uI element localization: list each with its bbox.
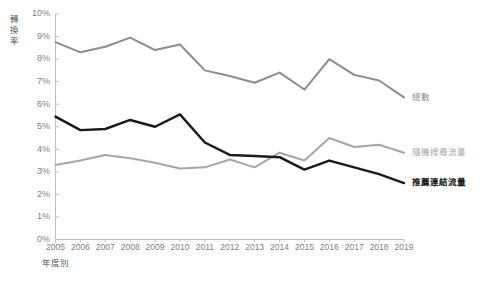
- x-tick-label: 2007: [96, 242, 115, 252]
- series-label: 隨機搜尋流量: [412, 147, 466, 157]
- y-tick-label: 9%: [37, 31, 50, 41]
- y-axis-title-char: 轉: [10, 14, 19, 24]
- series-label: 總數: [412, 92, 430, 102]
- y-tick-label: 10%: [32, 8, 50, 18]
- x-axis-title: 年度別: [42, 258, 69, 268]
- x-tick-label: 2009: [146, 242, 165, 252]
- x-tick-label: 2011: [196, 242, 215, 252]
- x-tick-label: 2018: [370, 242, 389, 252]
- series-inline-labels: 總數隨機搜尋流量推薦連結流量: [412, 92, 466, 188]
- x-tick-label: 2008: [121, 242, 140, 252]
- y-axis-tick-labels: 0%1%2%3%4%5%6%7%8%9%10%: [32, 8, 59, 244]
- y-tick-label: 6%: [37, 99, 50, 109]
- series-label: 推薦連結流量: [412, 177, 466, 187]
- y-tick-label: 3%: [37, 166, 50, 176]
- y-tick-label: 7%: [37, 76, 50, 86]
- x-axis-tick-labels: 2005200620072008200920102011201220132014…: [46, 242, 414, 252]
- line-chart: 轉換率 0%1%2%3%4%5%6%7%8%9%10% 200520062007…: [0, 0, 482, 282]
- x-tick-label: 2019: [395, 242, 414, 252]
- x-tick-label: 2015: [295, 242, 314, 252]
- y-axis-title: 轉換率: [10, 14, 19, 46]
- series-lines: [56, 38, 405, 183]
- x-tick-label: 2014: [270, 242, 289, 252]
- x-tick-label: 2016: [320, 242, 339, 252]
- y-tick-label: 2%: [37, 189, 50, 199]
- y-tick-label: 8%: [37, 53, 50, 63]
- x-tick-label: 2017: [345, 242, 364, 252]
- x-tick-label: 2012: [220, 242, 239, 252]
- x-tick-label: 2010: [171, 242, 190, 252]
- x-tick-label: 2006: [71, 242, 90, 252]
- chart-canvas: 轉換率 0%1%2%3%4%5%6%7%8%9%10% 200520062007…: [0, 0, 482, 282]
- y-tick-label: 5%: [37, 121, 50, 131]
- series-line: [56, 114, 405, 183]
- x-tick-label: 2013: [245, 242, 264, 252]
- series-line: [56, 38, 405, 98]
- y-axis-title-char: 率: [10, 36, 19, 46]
- y-tick-label: 4%: [37, 144, 50, 154]
- series-line: [56, 138, 405, 168]
- y-tick-label: 1%: [37, 211, 50, 221]
- y-axis-title-char: 換: [10, 25, 19, 35]
- x-tick-label: 2005: [46, 242, 65, 252]
